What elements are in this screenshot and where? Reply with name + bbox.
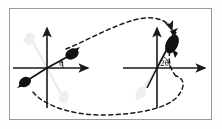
- left-dark-vector-upper-right: [47, 46, 81, 68]
- figure-root: θ 2θ: [0, 0, 222, 129]
- figure-diagram: θ 2θ: [0, 0, 222, 129]
- left-dark-vector-lower-left: [17, 68, 47, 89]
- right-dark-vector-lower-left: [147, 68, 157, 88]
- right-panel: 2θ: [123, 28, 205, 108]
- left-angle-label: θ: [59, 58, 63, 68]
- ghost-vector-lower-right: [47, 68, 71, 105]
- right-angle-label: 2θ: [160, 58, 169, 68]
- right-ghost-vector-lower-left: [133, 68, 157, 101]
- ghost-vector-upper-left: [23, 31, 47, 68]
- left-panel: θ: [13, 28, 88, 108]
